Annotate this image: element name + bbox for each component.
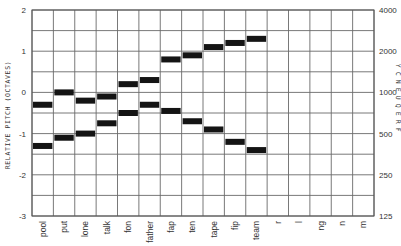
- formant-bar: [119, 110, 138, 116]
- frequency-label-letter: Q: [394, 104, 401, 109]
- category-label: put: [59, 220, 69, 232]
- formant-bar: [140, 77, 159, 83]
- frequency-tick-label: 125: [379, 212, 393, 221]
- category-label: l: [294, 221, 304, 223]
- frequency-tick-label: 4000: [379, 6, 397, 15]
- formant-bar: [119, 81, 138, 87]
- formant-chart: 210-1-2-3 400020001000500250125 poolputl…: [0, 0, 401, 246]
- formant-bar: [97, 120, 116, 126]
- category-label: fip: [230, 221, 240, 230]
- formant-bar: [54, 135, 73, 141]
- category-label: r: [273, 221, 283, 224]
- category-label: lone: [80, 221, 90, 237]
- y-tick-label: -1: [19, 130, 27, 139]
- formant-bar: [183, 52, 202, 58]
- frequency-label-letter: C: [394, 72, 401, 77]
- y-axis-ticks-left: 210-1-2-3: [19, 6, 27, 221]
- y-tick-label: -3: [19, 212, 27, 221]
- frequency-label-letter: Y: [394, 64, 401, 69]
- formant-bar: [161, 56, 180, 62]
- category-label: father: [145, 221, 155, 243]
- category-label: tape: [209, 221, 219, 238]
- y-tick-label: 0: [22, 88, 27, 97]
- formant-bar: [183, 118, 202, 124]
- formant-bar: [33, 143, 52, 149]
- formant-bar: [76, 131, 95, 137]
- frequency-label-letter: U: [394, 96, 401, 101]
- formant-bar: [54, 89, 73, 95]
- category-label: fon: [123, 221, 133, 233]
- formant-bar: [247, 36, 266, 42]
- formant-bar: [225, 139, 244, 145]
- x-axis-category-labels: poolputlonetalkfonfatherfaptentapefiptea…: [38, 220, 369, 242]
- formant-bar: [225, 40, 244, 46]
- bars: [33, 36, 266, 153]
- y-tick-label: -2: [19, 171, 27, 180]
- grid-lines: [32, 10, 374, 216]
- frequency-label-letter: R: [394, 120, 401, 125]
- y-axis-label-right: FREQUENCY: [394, 64, 401, 133]
- formant-bar: [140, 102, 159, 108]
- category-label: n: [337, 221, 347, 226]
- frequency-label-letter: E: [394, 112, 401, 117]
- frequency-label-letter: F: [394, 128, 401, 133]
- y-axis-label-left: RELATIVE PITCH (OCTAVES): [4, 61, 12, 169]
- frequency-label-letter: E: [394, 88, 401, 93]
- frequency-tick-label: 250: [379, 171, 393, 180]
- category-label: m: [358, 221, 368, 228]
- y-tick-label: 2: [22, 6, 27, 15]
- formant-bar: [97, 94, 116, 100]
- formant-bar: [247, 147, 266, 153]
- y-tick-label: 1: [22, 47, 27, 56]
- formant-bar: [204, 44, 223, 50]
- formant-bar: [76, 98, 95, 104]
- category-label: pool: [38, 221, 48, 237]
- formant-bar: [204, 126, 223, 132]
- category-label: fap: [166, 221, 176, 233]
- category-label: ng: [316, 221, 326, 231]
- category-label: talk: [102, 220, 112, 234]
- frequency-tick-label: 2000: [379, 47, 397, 56]
- category-label: team: [251, 221, 261, 240]
- frequency-tick-label: 500: [379, 130, 393, 139]
- category-label: ten: [187, 221, 197, 233]
- formant-bar: [33, 102, 52, 108]
- frequency-label-letter: N: [394, 80, 401, 85]
- formant-bar: [161, 108, 180, 114]
